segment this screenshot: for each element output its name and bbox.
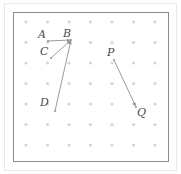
grid-dot [46, 20, 49, 23]
grid-dot [153, 102, 156, 105]
vector-CB [51, 43, 68, 58]
grid-dot [153, 82, 156, 85]
grid-dot [67, 61, 70, 64]
grid-dot [89, 123, 92, 126]
figure-canvas [0, 0, 181, 174]
grid-dot [67, 20, 70, 23]
grid-dot [153, 61, 156, 64]
grid-dot [153, 143, 156, 146]
grid-dot [24, 143, 27, 146]
vector-arrows-group [48, 39, 136, 111]
grid-dot [110, 20, 113, 23]
grid-dot [89, 41, 92, 44]
point-label-c: C [40, 46, 48, 57]
grid-dot [24, 20, 27, 23]
point-marker-a [47, 40, 49, 42]
grid-dot [67, 143, 70, 146]
grid-dot [110, 123, 113, 126]
geometry-figure: ABCDPQ [0, 0, 181, 174]
grid-dot [110, 61, 113, 64]
vector-AB [48, 40, 67, 41]
grid-dot [132, 123, 135, 126]
grid-dot [153, 41, 156, 44]
point-label-d: D [40, 97, 49, 108]
grid-dot [89, 143, 92, 146]
grid-dot [46, 143, 49, 146]
vector-PQ [114, 60, 134, 103]
grid-dot [110, 143, 113, 146]
grid-dot [67, 82, 70, 85]
grid-dot [67, 123, 70, 126]
grid-dot [89, 20, 92, 23]
grid-dot [24, 82, 27, 85]
point-label-b: B [63, 28, 71, 39]
point-label-a: A [38, 29, 46, 40]
grid-dot [24, 102, 27, 105]
grid-dot [67, 102, 70, 105]
grid-dot [89, 102, 92, 105]
grid-dot [89, 82, 92, 85]
grid-dot [132, 82, 135, 85]
grid-dot [110, 102, 113, 105]
grid-dot [89, 61, 92, 64]
grid-dot [132, 41, 135, 44]
grid-dot [132, 20, 135, 23]
point-marker-c [50, 57, 52, 59]
grid-dot [110, 41, 113, 44]
point-marker-p [113, 59, 115, 61]
grid-dot [153, 20, 156, 23]
grid-dot [132, 61, 135, 64]
grid-dot [46, 123, 49, 126]
grid-dot [110, 82, 113, 85]
vector-DB [55, 44, 70, 111]
grid-dot [132, 143, 135, 146]
point-label-p: P [107, 47, 114, 58]
grid-dot [153, 123, 156, 126]
point-label-q: Q [137, 107, 146, 118]
grid-dot [46, 82, 49, 85]
grid-dot [46, 61, 49, 64]
point-marker-d [54, 110, 56, 112]
grid-dot [24, 61, 27, 64]
grid-dot [24, 41, 27, 44]
grid-dot [24, 123, 27, 126]
